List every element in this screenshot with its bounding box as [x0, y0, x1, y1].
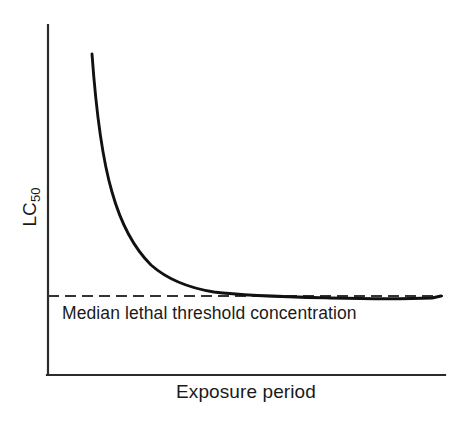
lc50-exposure-plot: [0, 0, 470, 424]
x-axis-label: Exposure period: [176, 381, 316, 403]
threshold-annotation-label: Median lethal threshold concentration: [62, 303, 357, 324]
figure-canvas: LC50 Exposure period Median lethal thres…: [0, 0, 470, 424]
lc50-curve: [92, 54, 441, 299]
